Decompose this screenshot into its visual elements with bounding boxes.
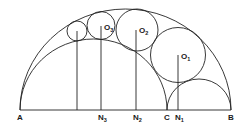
label-O1: O1 — [181, 52, 190, 62]
semicircle-AB — [20, 9, 231, 110]
label-N2: N2 — [133, 113, 142, 123]
label-C: C — [164, 113, 170, 122]
label-N1: N1 — [175, 113, 184, 123]
label-N3: N3 — [98, 113, 107, 123]
arbelos-diagram: A N3 N2 C N1 B O1 O2 O3 — [0, 0, 244, 129]
semicircle-CB — [167, 79, 231, 110]
label-O2: O2 — [139, 26, 148, 36]
label-A: A — [17, 113, 23, 122]
label-O3: O3 — [104, 23, 113, 33]
label-B: B — [228, 113, 234, 122]
circle-O2 — [116, 9, 158, 51]
